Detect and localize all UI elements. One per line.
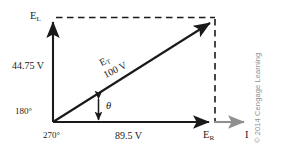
label-er: ER <box>203 130 214 142</box>
label-resistive-voltage: 89.5 V <box>115 131 142 141</box>
copyright-notice: © 2014 Cengage Learning <box>254 53 262 143</box>
vector-canvas <box>0 0 283 166</box>
label-inductive-voltage: 44.75 V <box>12 61 44 71</box>
label-el: EL <box>30 11 41 23</box>
label-theta: θ <box>106 101 111 112</box>
label-angle-270: 270° <box>43 131 60 140</box>
label-angle-180: 180° <box>15 107 32 116</box>
phasor-diagram-figure: EL ER I 44.75 V 89.5 V 180° 270° θ ET 10… <box>0 0 283 166</box>
label-current: I <box>245 130 249 141</box>
vector-et <box>53 23 210 122</box>
